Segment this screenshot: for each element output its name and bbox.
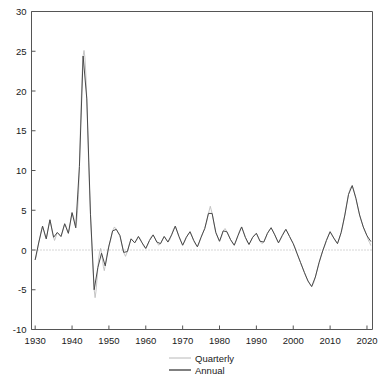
y-tick-label: 10 — [16, 165, 27, 176]
y-tick-label: 0 — [21, 245, 26, 256]
y-tick-label: 30 — [16, 6, 27, 17]
x-tick-label: 2000 — [283, 335, 304, 346]
legend-label-annual: Annual — [195, 365, 225, 376]
x-tick-label: 1950 — [98, 335, 119, 346]
y-tick-label: 20 — [16, 86, 27, 97]
y-tick-label: 15 — [16, 125, 27, 136]
x-tick-label: 1980 — [209, 335, 230, 346]
x-tick-label: 1990 — [246, 335, 267, 346]
y-tick-label: 5 — [21, 205, 26, 216]
x-tick-label: 2020 — [356, 335, 377, 346]
y-tick-label: -5 — [18, 284, 26, 295]
legend-label-quarterly: Quarterly — [195, 353, 234, 364]
x-axis-tick-labels: 1930194019501960197019801990200020102020 — [25, 335, 378, 346]
chart-figure: -10-5051015202530 1930194019501960197019… — [0, 0, 384, 381]
y-tick-label: 25 — [16, 46, 27, 57]
chart-legend: Quarterly Annual — [169, 353, 234, 376]
x-tick-label: 1930 — [25, 335, 46, 346]
y-axis-tick-labels: -10-5051015202530 — [13, 6, 27, 335]
y-tick-label: -10 — [13, 324, 27, 335]
x-tick-label: 1940 — [61, 335, 82, 346]
x-tick-label: 1960 — [135, 335, 156, 346]
series-line-annual — [35, 56, 370, 290]
y-axis-tick-marks — [32, 12, 36, 330]
x-axis-tick-marks — [35, 326, 367, 330]
x-tick-label: 1970 — [172, 335, 193, 346]
line-chart: -10-5051015202530 1930194019501960197019… — [0, 0, 384, 381]
x-tick-label: 2010 — [320, 335, 341, 346]
